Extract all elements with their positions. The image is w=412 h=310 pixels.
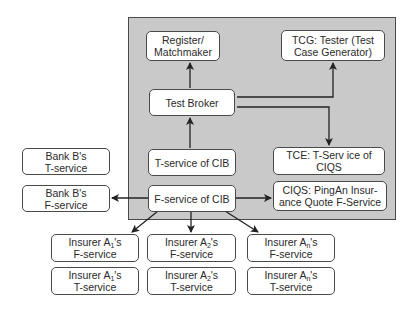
insurer-a1-f-service-node: Insurer A1's F-service (51, 234, 139, 262)
insurer-a1-t-service-node: Insurer A1's T-service (51, 267, 139, 295)
insurer-an-f-service-node: Insurer An's F-service (247, 234, 335, 262)
register-matchmaker-node: Register/ Matchmaker (146, 31, 220, 61)
diagram-canvas: Register/ Matchmaker TCG: Tester (Test C… (0, 0, 412, 310)
bank-b-t-service-node: Bank B's T-service (22, 148, 110, 175)
ciqs-node: CIQS: PingAn Insur- ance Quote F-Service (273, 181, 387, 211)
test-broker-node: Test Broker (149, 89, 235, 116)
tcg-tester-node: TCG: Tester (Test Case Generator) (281, 30, 385, 61)
insurer-a2-f-service-node: Insurer A2's F-service (147, 234, 236, 262)
bank-b-f-service-node: Bank B's F-service (22, 185, 110, 212)
t-service-cib-node: T-service of CIB (148, 149, 236, 176)
insurer-a2-t-service-node: Insurer A2's T-service (147, 267, 236, 295)
f-service-cib-node: F-service of CIB (148, 185, 236, 212)
insurer-an-t-service-node: Insurer An's T-service (247, 267, 335, 295)
tce-node: TCE: T-Serv ice of CIQS (273, 147, 385, 175)
